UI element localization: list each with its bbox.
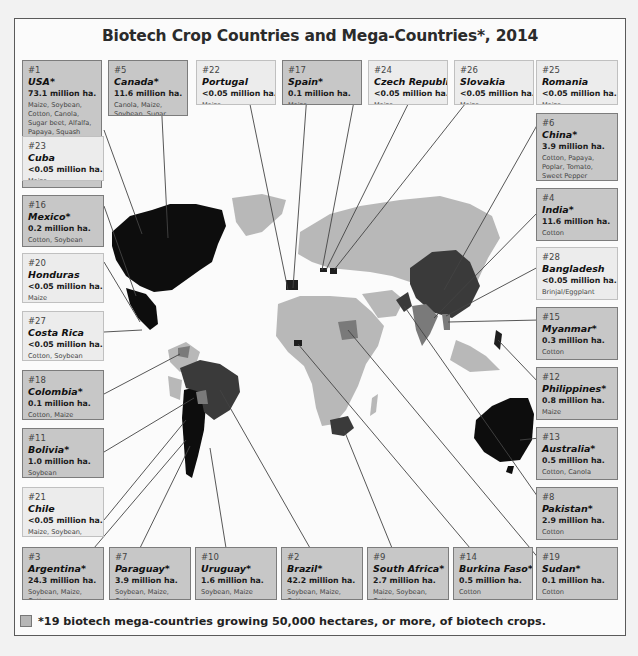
country-box-pakistan: #8 Pakistan* 2.9 million ha. Cotton <box>536 487 618 540</box>
country-box-colombia: #18 Colombia* 0.1 million ha. Cotton, Ma… <box>22 370 104 420</box>
country-box-czech-republic: #24 Czech Republic <0.05 million ha. Mai… <box>368 60 448 105</box>
mega-country-swatch <box>20 615 32 627</box>
legend-text: *19 biotech mega-countries growing 50,00… <box>38 615 546 628</box>
country-box-mexico: #16 Mexico* 0.2 million ha. Cotton, Soyb… <box>22 195 104 247</box>
country-box-canada: #5 Canada* 11.6 million ha. Canola, Maiz… <box>108 60 188 116</box>
country-box-romania: #25 Romania <0.05 million ha. Maize <box>536 60 618 105</box>
country-box-uruguay: #10 Uruguay* 1.6 million ha. Soybean, Ma… <box>195 547 277 600</box>
country-box-slovakia: #26 Slovakia <0.05 million ha. Maize <box>454 60 534 105</box>
country-box-australia: #13 Australia* 0.5 million ha. Cotton, C… <box>536 427 618 480</box>
country-box-brazil: #2 Brazil* 42.2 million ha. Soybean, Mai… <box>281 547 363 600</box>
country-box-paraguay: #7 Paraguay* 3.9 million ha. Soybean, Ma… <box>109 547 191 600</box>
legend: *19 biotech mega-countries growing 50,00… <box>20 614 546 628</box>
country-box-portugal: #22 Portugal <0.05 million ha. Maize <box>196 60 276 105</box>
country-box-honduras: #20 Honduras <0.05 million ha. Maize <box>22 253 104 303</box>
country-box-chile: #21 Chile <0.05 million ha. Maize, Soybe… <box>22 487 104 537</box>
country-box-china: #6 China* 3.9 million ha. Cotton, Papaya… <box>536 113 618 181</box>
country-box-burkina-faso: #14 Burkina Faso* 0.5 million ha. Cotton <box>453 547 533 600</box>
country-box-bangladesh: #28 Bangladesh <0.05 million ha. Brinjal… <box>536 247 618 300</box>
country-box-cuba: #23 Cuba <0.05 million ha. Maize <box>22 136 104 181</box>
country-box-spain: #17 Spain* 0.1 million ha. Maize <box>282 60 362 105</box>
country-box-south-africa: #9 South Africa* 2.7 million ha. Maize, … <box>367 547 449 600</box>
country-box-philippines: #12 Philippines* 0.8 million ha. Maize <box>536 367 618 420</box>
country-box-sudan: #19 Sudan* 0.1 million ha. Cotton <box>536 547 618 600</box>
country-box-costa-rica: #27 Costa Rica <0.05 million ha. Cotton,… <box>22 311 104 361</box>
country-box-india: #4 India* 11.6 million ha. Cotton <box>536 188 618 241</box>
country-box-myanmar: #15 Myanmar* 0.3 million ha. Cotton <box>536 307 618 360</box>
country-box-argentina: #3 Argentina* 24.3 million ha. Soybean, … <box>22 547 104 600</box>
country-box-bolivia: #11 Bolivia* 1.0 million ha. Soybean <box>22 428 104 478</box>
